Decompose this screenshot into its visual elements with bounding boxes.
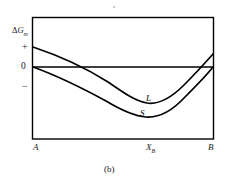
y-tick-zero: 0 [21,62,26,72]
y-tick-minus: − [22,82,28,92]
scan-speck [113,6,115,8]
y-axis-title: ΔGm [12,26,28,37]
curve-label-liquid: L [146,94,151,103]
figure-container: ΔGm + 0 − L S A XB B (b) [0,0,229,184]
x-axis-center-subscript: B [152,148,156,154]
figure-caption: (b) [104,165,115,174]
x-axis-label-b: B [208,143,214,152]
x-axis-label-xb: XB [146,143,155,154]
plot-canvas [0,0,229,184]
y-axis-subscript: m [24,31,28,37]
curve-label-solid: S [140,109,145,118]
y-tick-plus: + [22,42,28,52]
x-axis-label-a: A [33,143,39,152]
